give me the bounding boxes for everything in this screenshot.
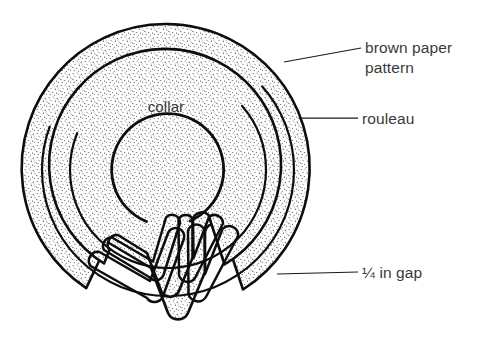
- label-brown-paper-pattern-line2: pattern: [365, 59, 414, 76]
- leader-brown-paper-pattern: [284, 48, 361, 62]
- label-gap: ¼ in gap: [362, 264, 422, 281]
- label-collar: collar: [148, 98, 184, 115]
- label-brown-paper-pattern-line1: brown paper: [365, 39, 452, 56]
- figure-root: collar brown paper pattern rouleau ¼ in …: [0, 0, 491, 354]
- leader-gap: [277, 272, 358, 274]
- label-rouleau: rouleau: [362, 110, 414, 127]
- collar-rouleau-diagram: collar brown paper pattern rouleau ¼ in …: [0, 0, 491, 354]
